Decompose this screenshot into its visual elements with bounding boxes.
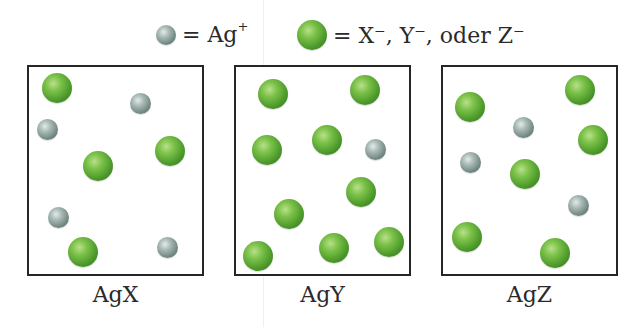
anion-icon — [243, 241, 273, 271]
anion-icon — [374, 227, 404, 257]
silver-ion-icon — [568, 195, 589, 216]
anion-icon — [565, 75, 595, 105]
anion-icon — [510, 159, 540, 189]
box-label: AgZ — [441, 282, 618, 307]
anion-icon — [252, 135, 282, 165]
anion-icon — [312, 125, 342, 155]
anion-icon — [83, 151, 113, 181]
box-label: AgX — [27, 282, 204, 307]
anion-icon — [274, 199, 304, 229]
anion-icon — [452, 222, 482, 252]
anion-icon — [297, 20, 327, 50]
box-label: AgY — [234, 282, 411, 307]
anion-icon — [68, 237, 98, 267]
legend-silver: = Ag+ — [156, 18, 248, 52]
anion-icon — [258, 79, 288, 109]
legend-anion: = X⁻, Y⁻, oder Z⁻ — [297, 18, 525, 52]
anion-icon — [540, 238, 570, 268]
anion-icon — [319, 233, 349, 263]
anion-icon — [42, 73, 72, 103]
silver-ion-icon — [48, 207, 69, 228]
legend-silver-label: = Ag+ — [182, 22, 248, 47]
anion-icon — [455, 92, 485, 122]
anion-icon — [350, 75, 380, 105]
silver-ion-icon — [513, 117, 534, 138]
silver-ion-icon — [460, 152, 481, 173]
silver-ion-icon — [156, 25, 176, 45]
silver-ion-icon — [365, 139, 386, 160]
anion-icon — [346, 177, 376, 207]
silver-ion-icon — [37, 119, 58, 140]
silver-ion-icon — [130, 93, 151, 114]
anion-icon — [578, 125, 608, 155]
silver-ion-icon — [157, 237, 178, 258]
anion-icon — [155, 136, 185, 166]
legend: = Ag+ = X⁻, Y⁻, oder Z⁻ — [0, 18, 639, 52]
legend-anion-label: = X⁻, Y⁻, oder Z⁻ — [333, 23, 525, 48]
